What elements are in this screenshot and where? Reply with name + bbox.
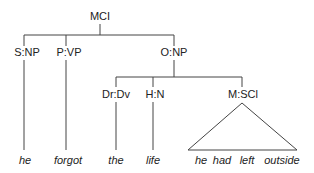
node-mscl: M:SCl <box>228 88 258 100</box>
node-root: MCI <box>90 10 110 22</box>
leaf-tri-outside: outside <box>264 154 299 166</box>
leaf-tri-he: he <box>195 154 207 166</box>
leaf-forgot: forgot <box>54 154 83 166</box>
triangle-mscl <box>188 103 297 150</box>
node-hn: H:N <box>146 88 165 100</box>
leaf-he: he <box>19 154 31 166</box>
leaf-tri-had: had <box>213 154 232 166</box>
leaf-tri-left: left <box>240 154 256 166</box>
leaf-life: life <box>146 154 160 166</box>
syntax-tree: MCI S:NP he P:VP forgot O:NP Dr:Dv the H… <box>0 0 314 173</box>
node-drdv: Dr:Dv <box>102 88 131 100</box>
node-snp: S:NP <box>14 46 40 58</box>
node-onp: O:NP <box>161 46 188 58</box>
leaf-the: the <box>108 154 123 166</box>
node-pvp: P:VP <box>56 46 81 58</box>
